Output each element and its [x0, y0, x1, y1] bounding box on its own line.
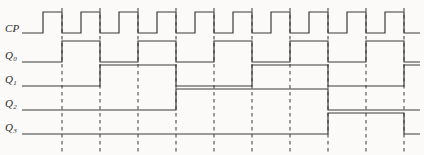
trace-q0	[22, 41, 420, 62]
signal-label-subscript: 3	[13, 127, 17, 135]
waveform-canvas	[0, 0, 424, 155]
trace-q3	[22, 113, 420, 134]
signal-label-subscript: 1	[13, 79, 17, 87]
signal-label-text: Q	[5, 73, 13, 85]
signal-label-q1: Q1	[5, 73, 17, 87]
signal-label-text: CP	[5, 22, 19, 34]
timing-diagram-figure: CPQ0Q1Q2Q3	[0, 0, 424, 155]
signal-label-q3: Q3	[5, 121, 17, 135]
signal-label-text: Q	[5, 121, 13, 133]
signal-label-q2: Q2	[5, 97, 17, 111]
trace-cp	[22, 12, 420, 33]
signal-label-subscript: 2	[13, 103, 17, 111]
signal-label-q0: Q0	[5, 49, 17, 63]
trace-q1	[22, 65, 420, 86]
signal-label-subscript: 0	[13, 55, 17, 63]
trace-q2	[22, 89, 420, 110]
signal-label-text: Q	[5, 49, 13, 61]
signal-label-text: Q	[5, 97, 13, 109]
signal-label-cp: CP	[5, 22, 19, 34]
